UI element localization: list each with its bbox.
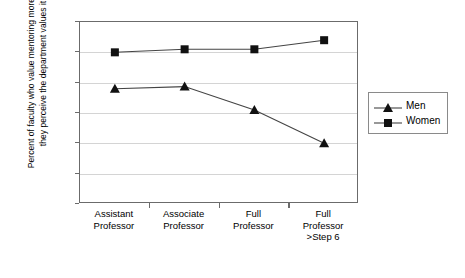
series-line-women bbox=[115, 40, 324, 52]
square-marker-icon bbox=[181, 45, 189, 53]
legend-key bbox=[373, 100, 403, 112]
legend-label: Men bbox=[403, 100, 425, 111]
legend-key bbox=[373, 115, 403, 127]
legend-label: Women bbox=[403, 115, 440, 126]
y-axis-tick-mark bbox=[75, 203, 79, 204]
triangle-marker-icon bbox=[319, 138, 329, 147]
line-chart: Percent of faculty who value mentoring m… bbox=[0, 0, 465, 278]
chart-legend: MenWomen bbox=[368, 92, 448, 134]
y-axis-title: Percent of faculty who value mentoring m… bbox=[26, 0, 49, 169]
series-line-men bbox=[115, 87, 324, 144]
triangle-marker-icon bbox=[249, 105, 259, 114]
legend-item-women: Women bbox=[373, 113, 440, 128]
legend-item-men: Men bbox=[373, 98, 440, 113]
square-marker-icon bbox=[111, 48, 119, 56]
x-axis-tick-label: FullProfessor>Step 6 bbox=[278, 208, 368, 243]
plot-area bbox=[79, 21, 358, 203]
square-marker-icon bbox=[250, 45, 258, 53]
square-marker-icon bbox=[384, 119, 392, 127]
x-axis-tick-label-line: >Step 6 bbox=[278, 231, 368, 243]
x-axis-tick-label-line: Full bbox=[278, 208, 368, 220]
square-marker-icon bbox=[320, 36, 328, 44]
triangle-marker-icon bbox=[180, 82, 190, 91]
series-layer bbox=[80, 22, 359, 204]
x-axis-tick-label-line: Professor bbox=[278, 220, 368, 232]
